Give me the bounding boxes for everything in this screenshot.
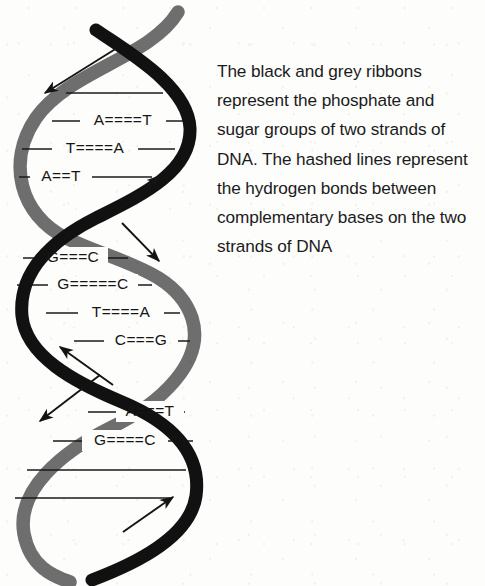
arrow-middle-right	[122, 223, 159, 261]
base-pair-label: G===C	[47, 248, 99, 265]
base-pair-label: T====A	[66, 139, 125, 156]
arrow-bottom-right	[123, 497, 173, 532]
base-pair-label: G====C	[94, 431, 156, 448]
grey-strand	[20, 12, 194, 582]
dna-figure: A====T T====A A==T G===C G=====C T====A …	[0, 0, 485, 586]
base-pair-label: T====A	[92, 303, 151, 320]
base-pair-label: A===T	[126, 402, 175, 419]
base-pair-label: G=====C	[57, 275, 128, 292]
base-pair-label: A====T	[94, 111, 153, 128]
base-pair-label: C===G	[115, 331, 167, 348]
dna-helix-illustration: A====T T====A A==T G===C G=====C T====A …	[0, 0, 215, 586]
base-pair-label: A==T	[41, 167, 81, 184]
caption-text: The black and grey ribbons represent the…	[217, 57, 475, 261]
